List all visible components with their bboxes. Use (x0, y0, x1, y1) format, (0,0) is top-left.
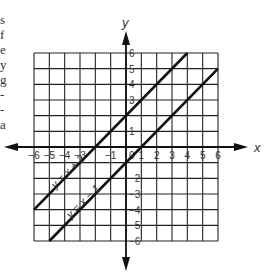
y-tick-label: −6 (129, 236, 141, 247)
x-tick-label: −6 (28, 150, 40, 161)
y-tick-label: 5 (129, 64, 135, 75)
x-tick-label: −5 (44, 150, 56, 161)
x-tick-label: 6 (215, 150, 221, 161)
x-tick-label: 3 (169, 150, 175, 161)
y-axis-arrow-down-icon (122, 257, 130, 271)
x-tick-label: 5 (200, 150, 206, 161)
y-axis-arrow-up-icon (122, 31, 130, 45)
x-tick-label: 2 (154, 150, 160, 161)
y-axis-label: y (121, 15, 130, 30)
y-tick-label: 6 (129, 48, 135, 59)
x-axis-arrow-left-icon (4, 143, 18, 151)
y-tick-label: −5 (129, 220, 141, 231)
x-tick-label: −1 (105, 150, 117, 161)
x-tick-label: 1 (139, 150, 145, 161)
y-tick-label: −3 (129, 189, 141, 200)
x-tick-label: 4 (185, 150, 191, 161)
y-tick-label: −4 (129, 205, 141, 216)
line-label: y = x − 1 (63, 182, 102, 221)
x-axis-arrow-right-icon (234, 143, 248, 151)
x-axis-label: x (253, 140, 261, 155)
y-tick-label: −2 (129, 173, 141, 184)
y-tick-label: 4 (129, 79, 135, 90)
coordinate-plane: xy −6−5−4−3−112345665431−2−3−4−5−60 y = … (0, 0, 269, 273)
x-tick-label: −4 (59, 150, 71, 161)
y-tick-label: 3 (129, 95, 135, 106)
y-tick-label: 1 (129, 126, 135, 137)
